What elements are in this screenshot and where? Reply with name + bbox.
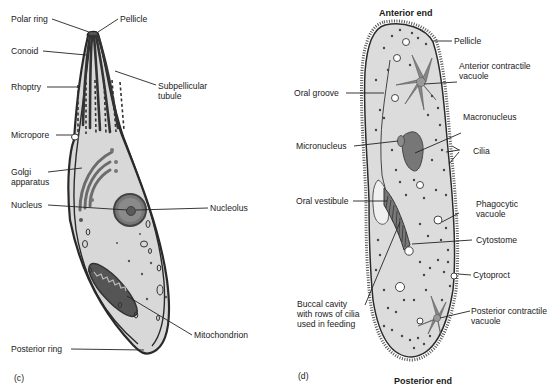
granule: [445, 227, 447, 229]
apicomplexan-cell: [43, 19, 208, 354]
label-posterior-ring: Posterior ring: [11, 344, 62, 354]
label-phagocytic-vacuole: Phagocytic vacuole: [476, 199, 518, 219]
granule: [387, 69, 389, 71]
panel-label-d: (d): [298, 371, 309, 381]
granule: [435, 139, 437, 141]
label-posterior-cv-line2: vacuole: [471, 316, 501, 326]
label-polar-ring: Polar ring: [11, 14, 48, 24]
nucleolus: [127, 207, 136, 216]
granule: [437, 259, 439, 261]
paramecium-cell: [346, 21, 472, 360]
granule: [431, 159, 433, 161]
granule: [413, 299, 415, 301]
granule: [401, 335, 403, 337]
granule: [375, 129, 377, 131]
label-pellicle-c: Pellicle: [120, 14, 147, 24]
label-micronucleus: Micronucleus: [296, 141, 347, 151]
granule: [409, 64, 411, 66]
granule: [383, 325, 385, 327]
label-buccal-line2: with rows of cilia: [297, 309, 360, 319]
granule: [383, 289, 385, 291]
label-golgi-apparatus: Golgi apparatus: [11, 167, 49, 187]
granule: [427, 114, 429, 116]
label-anterior-cv-line2: vacuole: [459, 71, 489, 81]
granule: [423, 343, 425, 345]
granule: [411, 32, 413, 34]
label-macronucleus: Macronucleus: [463, 112, 517, 122]
granule: [377, 239, 379, 241]
label-oral-vestibule: Oral vestibule: [296, 196, 349, 206]
granule: [383, 117, 385, 119]
granule: [399, 29, 401, 31]
granule: [417, 37, 419, 39]
granule: [379, 254, 381, 256]
label-nucleolus: Nucleolus: [210, 203, 248, 213]
label-micropore: Micropore: [11, 130, 49, 140]
label-posterior-cv-line1: Posterior contractile: [471, 306, 547, 316]
granule: [409, 339, 411, 341]
label-mitochondrion: Mitochondrion: [194, 330, 248, 340]
granule: [441, 299, 443, 301]
granule: [391, 35, 393, 37]
granule: [423, 197, 425, 199]
granule: [387, 307, 389, 309]
label-anterior-cv-line1: Anterior contractile: [459, 61, 531, 71]
granule: [413, 179, 415, 181]
granule: [435, 189, 437, 191]
label-pellicle-d: Pellicle: [454, 36, 481, 46]
label-anterior-end: Anterior end: [379, 8, 433, 18]
granule: [417, 337, 419, 339]
granule: [441, 149, 443, 151]
granule: [429, 267, 431, 269]
granule: [443, 271, 445, 273]
label-cilia: Cilia: [473, 146, 490, 156]
granule: [395, 311, 397, 313]
label-posterior-contractile-vacuole: Posterior contractile vacuole: [471, 306, 547, 326]
label-phagocytic-line1: Phagocytic: [476, 199, 518, 209]
granule: [379, 109, 381, 111]
granule: [395, 169, 397, 171]
granule: [419, 223, 421, 225]
granule: [439, 124, 441, 126]
granule: [440, 239, 442, 241]
label-cytostome: Cytostome: [476, 235, 517, 245]
label-subpellicular-line1: Subpellicular: [158, 81, 207, 91]
granule: [437, 107, 439, 109]
granule: [449, 285, 451, 287]
label-cytoproct: Cytoproct: [473, 270, 510, 280]
granule: [383, 47, 385, 49]
granule: [445, 194, 447, 196]
granule: [425, 289, 427, 291]
granule: [443, 169, 445, 171]
label-buccal-line3: used in feeding: [297, 319, 355, 329]
label-golgi-line2: apparatus: [11, 177, 49, 187]
granule: [413, 347, 415, 349]
granule: [427, 235, 429, 237]
granule: [405, 194, 407, 196]
granule: [429, 335, 431, 337]
label-buccal-line1: Buccal cavity: [297, 299, 347, 309]
label-posterior-end: Posterior end: [394, 376, 452, 386]
panel-label-c: (c): [14, 373, 24, 383]
micropore: [72, 134, 79, 140]
granule: [419, 261, 421, 263]
granule: [423, 274, 425, 276]
label-anterior-contractile-vacuole: Anterior contractile vacuole: [459, 61, 531, 81]
label-subpellicular-tubule: Subpellicular tubule: [158, 81, 207, 101]
diagram-canvas: [0, 0, 560, 391]
granule: [375, 79, 377, 81]
micronucleus: [398, 136, 405, 147]
granule: [431, 95, 433, 97]
granule: [403, 299, 405, 301]
granule: [425, 43, 427, 45]
label-golgi-line1: Golgi: [11, 167, 31, 177]
granule: [447, 249, 449, 251]
label-conoid: Conoid: [11, 46, 38, 56]
label-oral-groove: Oral groove: [294, 88, 339, 98]
label-rhoptry: Rhoptry: [11, 82, 41, 92]
label-buccal-cavity: Buccal cavity with rows of cilia used in…: [297, 299, 360, 329]
granule: [447, 261, 449, 263]
label-subpellicular-line2: tubule: [158, 91, 181, 101]
granule: [399, 181, 401, 183]
granule: [391, 329, 393, 331]
